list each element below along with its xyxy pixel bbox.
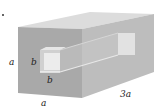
marker-dot [2,14,4,16]
label-hole-width: b [47,75,53,85]
label-length: 3a [120,89,131,99]
hole-inner-back [44,53,60,70]
tunnel-back-opening [118,33,135,55]
label-width: a [41,98,46,108]
label-hole-height: b [31,57,37,67]
block-diagram: a b b a 3a [0,0,167,109]
label-height: a [9,57,14,67]
